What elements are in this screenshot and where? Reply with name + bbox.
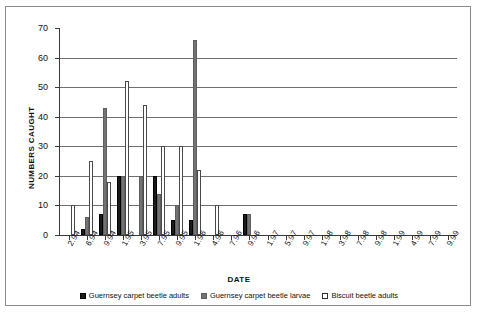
legend-swatch-biscuit-icon (322, 293, 328, 299)
legend-item-adults: Guernsey carpet beetle adults (80, 291, 189, 300)
plot-area (60, 28, 457, 235)
legend-label-adults: Guernsey carpet beetle adults (89, 291, 189, 300)
chart-frame: NUMBERS CAUGHT 010203040506070 2.946.949… (5, 6, 471, 306)
legend-label-larvae: Guernsey carpet beetle larvae (210, 291, 310, 300)
legend-swatch-adults-icon (80, 293, 86, 299)
bar-biscuit (143, 105, 147, 235)
legend-label-biscuit: Biscuit beetle adults (331, 291, 398, 300)
y-axis-tick-label: 60 (24, 54, 48, 63)
bar-biscuit (179, 146, 183, 235)
y-axis-tick-label: 30 (24, 142, 48, 151)
y-axis-tick-label: 40 (24, 113, 48, 122)
bar-biscuit (125, 81, 129, 235)
x-axis-title: DATE (6, 275, 472, 284)
bar-biscuit (89, 161, 93, 235)
legend-item-biscuit: Biscuit beetle adults (322, 291, 398, 300)
bar-biscuit (161, 146, 165, 235)
y-axis-tick-label: 20 (24, 172, 48, 181)
y-axis-tick-label: 50 (24, 83, 48, 92)
y-axis-tick-label: 70 (24, 24, 48, 33)
legend-item-larvae: Guernsey carpet beetle larvae (201, 291, 310, 300)
legend-swatch-larvae-icon (201, 293, 207, 299)
chart-legend: Guernsey carpet beetle adults Guernsey c… (6, 291, 472, 300)
y-axis-tick-label: 10 (24, 201, 48, 210)
y-axis-tick-label: 0 (24, 231, 48, 240)
